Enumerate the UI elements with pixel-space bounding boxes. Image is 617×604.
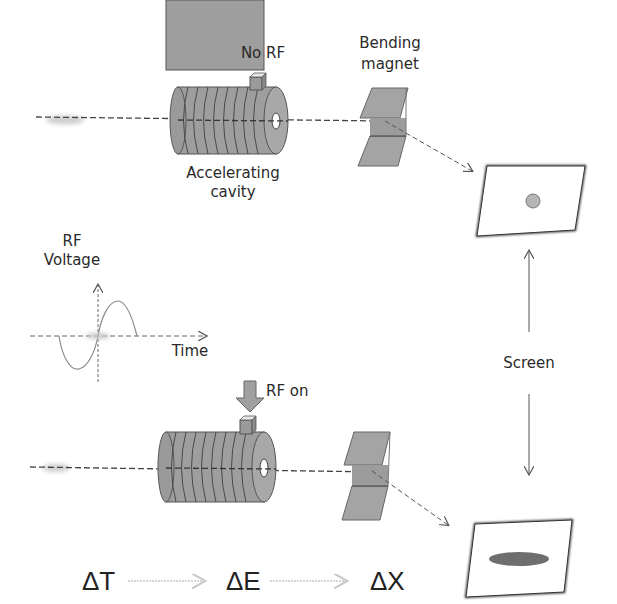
cavity-label-line2: cavity bbox=[158, 183, 308, 201]
elongated-spot bbox=[489, 552, 549, 566]
screen-top bbox=[477, 166, 585, 236]
diagram-canvas: No RF Accelerating cavity Bending magnet… bbox=[0, 0, 617, 604]
diagram-graphics bbox=[0, 0, 617, 604]
magnet-label-line2: magnet bbox=[340, 55, 440, 73]
rf-on-label: RF on bbox=[266, 382, 326, 400]
screen-bottom bbox=[466, 520, 572, 597]
rf-voltage-label-line1: RF bbox=[42, 232, 102, 250]
rf-on-arrow bbox=[236, 381, 264, 412]
accelerating-cavity-top bbox=[170, 73, 288, 154]
magnet-label-line1: Bending bbox=[340, 34, 440, 52]
delta-e-label: ΔE bbox=[226, 567, 261, 595]
screen-label: Screen bbox=[484, 354, 574, 372]
delta-x-label: ΔX bbox=[370, 567, 405, 595]
bending-magnet-top bbox=[358, 88, 472, 171]
cavity-label-line1: Accelerating bbox=[158, 164, 308, 182]
rf-voltage-label-line2: Voltage bbox=[32, 251, 112, 269]
time-axis-label: Time bbox=[160, 342, 220, 360]
rf-voltage-plot bbox=[30, 285, 206, 382]
electron-bunch-bottom bbox=[42, 464, 70, 472]
bending-magnet-bottom bbox=[342, 432, 448, 525]
delta-t-label: ΔT bbox=[82, 567, 115, 595]
round-spot bbox=[526, 194, 540, 208]
no-rf-label: No RF bbox=[228, 44, 298, 62]
